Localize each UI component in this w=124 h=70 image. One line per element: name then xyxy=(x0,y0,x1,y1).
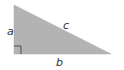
side-label-a: a xyxy=(7,25,14,38)
right-triangle-diagram: a c b xyxy=(0,0,124,70)
side-label-c: c xyxy=(63,19,69,32)
side-label-b: b xyxy=(56,56,63,69)
